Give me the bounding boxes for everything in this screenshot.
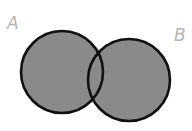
venn-diagram: A B <box>0 0 192 131</box>
set-a-label: A <box>6 13 19 33</box>
set-b-label: B <box>174 25 186 45</box>
